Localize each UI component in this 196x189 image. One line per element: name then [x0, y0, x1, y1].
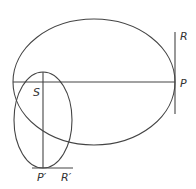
label-r: R — [180, 30, 188, 43]
diagram-canvas: R P S P′ R′ — [0, 0, 196, 189]
label-r-prime: R′ — [61, 171, 72, 184]
label-s: S — [33, 86, 40, 99]
label-p: P — [180, 77, 187, 90]
label-p-prime: P′ — [37, 171, 47, 184]
